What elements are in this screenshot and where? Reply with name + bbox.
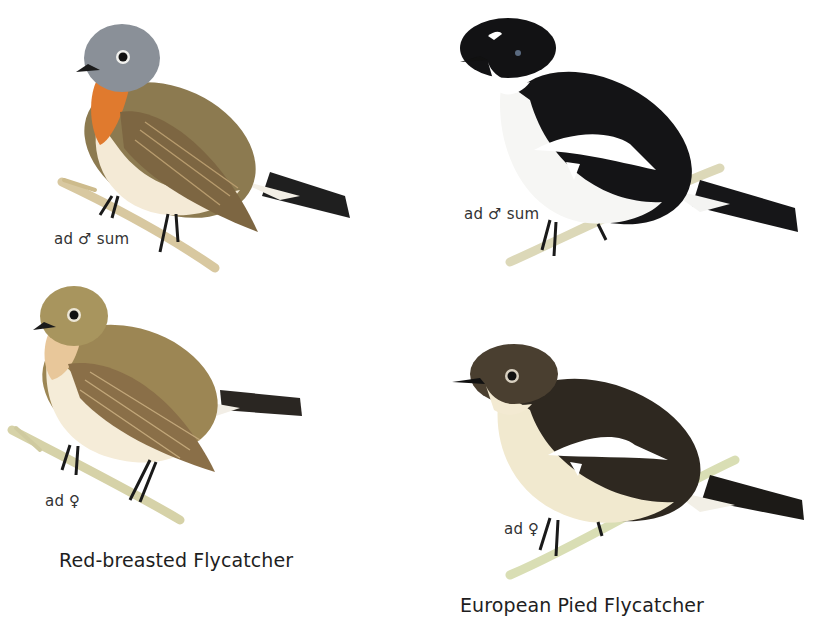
pied-flycatcher-male-illustration <box>430 0 818 290</box>
figure-red-breasted-male: ad ♂ sum <box>0 0 400 280</box>
age-sex-label: ad ♀ <box>504 520 539 538</box>
age-sex-label: ad ♀ <box>45 492 80 510</box>
figure-label-male-summer: ad ♂ sum <box>464 205 539 223</box>
figure-label-female: ad ♀ <box>504 520 539 538</box>
age-sex-label: ad ♂ sum <box>464 205 539 223</box>
figure-pied-female: ad ♀ <box>430 330 818 590</box>
age-sex-label: ad ♂ sum <box>54 230 129 248</box>
pied-flycatcher-female-illustration <box>430 330 818 590</box>
figure-pied-male: ad ♂ sum <box>430 0 818 290</box>
species-name-red-breasted-flycatcher: Red-breasted Flycatcher <box>59 549 293 571</box>
figure-red-breasted-female: ad ♀ <box>0 280 400 540</box>
species-name-european-pied-flycatcher: European Pied Flycatcher <box>460 594 704 616</box>
figure-label-female: ad ♀ <box>45 492 80 510</box>
figure-label-male-summer: ad ♂ sum <box>54 230 129 248</box>
